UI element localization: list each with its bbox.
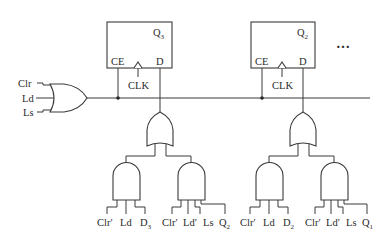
ce-pin-label: CE [111, 56, 124, 67]
enable-or-gate: Clr Ld Ls [18, 78, 87, 118]
and-gate-shift [321, 163, 348, 201]
and-gate-load [256, 163, 283, 201]
d-pin-label: D [156, 56, 164, 67]
clk-label: CLK [272, 80, 293, 91]
and1-to-or-wire [269, 144, 298, 163]
input-label: Ld [120, 217, 132, 228]
and2-to-or-wire [166, 144, 191, 163]
input-label: D3 [140, 217, 152, 231]
and1-input-wire [107, 200, 117, 214]
and1-to-or-wire [126, 144, 155, 163]
and1-input-wire [135, 200, 145, 214]
and2-input-wire [195, 200, 200, 214]
and2-to-or-wire [309, 144, 334, 163]
input-label: Clr′ [240, 217, 256, 228]
input-label: Ls [203, 217, 214, 228]
input-label-ls: Ls [23, 107, 34, 118]
input-label: Clr′ [162, 217, 178, 228]
ce-pin-label: CE [255, 56, 268, 67]
and-gate-load [113, 163, 140, 201]
mux-or-gate [290, 112, 316, 146]
input-label: Clr′ [305, 217, 321, 228]
and2-input-wire [201, 200, 225, 214]
and2-input-wire [315, 200, 324, 214]
stage-2-logic: Clr′ Ld D2 Clr′ Ld′ Ls Q1 [240, 112, 374, 231]
flipflop-q2: Q2 CE D CLK [251, 22, 315, 114]
and2-input-wire [338, 200, 343, 214]
input-label: Q1 [362, 217, 374, 231]
flipflop-q3: Q3 CE D CLK [107, 22, 172, 114]
stage-1-logic: Clr′ Ld D3 Clr′ Ld′ Ls Q2 [97, 112, 231, 231]
input-label: Ld′ [326, 217, 340, 228]
mux-or-gate [147, 112, 173, 146]
and1-input-wire [250, 200, 260, 214]
input-label-clr: Clr [18, 78, 32, 89]
and2-input-wire [172, 200, 181, 214]
input-label: Ld [263, 217, 275, 228]
and1-input-wire [278, 200, 288, 214]
input-label: Clr′ [97, 217, 113, 228]
input-label: Q2 [219, 217, 231, 231]
input-label: Ls [346, 217, 357, 228]
d-pin-label: D [299, 56, 307, 67]
input-label-ld: Ld [22, 93, 34, 104]
input-label: D2 [283, 217, 295, 231]
circuit-diagram: Clr Ld Ls Q3 CE D CLK Q2 CE D CLK … [0, 0, 388, 240]
clk-label: CLK [128, 80, 149, 91]
and-gate-shift [178, 163, 205, 201]
or-gate-shape [50, 84, 87, 112]
continuation-ellipsis: … [336, 36, 352, 51]
and2-input-wire [344, 200, 367, 214]
input-label: Ld′ [183, 217, 197, 228]
